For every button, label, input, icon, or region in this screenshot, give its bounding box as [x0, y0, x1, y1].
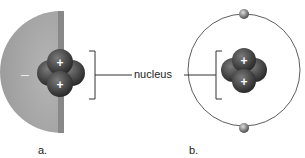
cloud-negative-sign: – — [21, 66, 29, 82]
nucleus-label: nucleus — [134, 68, 172, 80]
panel-b-model: + + — [184, 9, 300, 133]
panel-a-model: – + + — [0, 11, 132, 133]
electron-bottom — [239, 123, 249, 133]
proton-plus: + — [240, 75, 247, 89]
panel-b-label: b. — [189, 144, 198, 156]
panel-a-label: a. — [38, 144, 47, 156]
proton-plus: + — [240, 54, 247, 68]
proton-plus: + — [56, 56, 63, 70]
bracket-a — [89, 51, 95, 99]
nucleus-b: + + — [221, 48, 267, 93]
electron-top — [239, 9, 249, 19]
bracket-b — [216, 51, 222, 99]
proton-plus: + — [56, 78, 63, 92]
